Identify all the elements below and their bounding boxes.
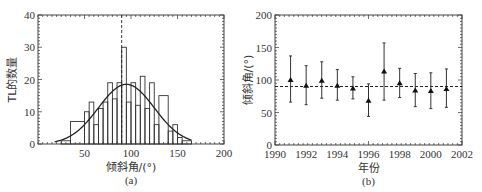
x-tick-label: 1998 <box>389 148 412 160</box>
y-tick-label: 200 <box>256 9 273 21</box>
triangle-marker <box>381 69 387 74</box>
figure: 50100150200010203040倾斜角/(°)TL的数量(a) 1990… <box>0 0 482 192</box>
histogram-bin <box>178 138 183 144</box>
histogram-bin <box>131 83 136 144</box>
panel-caption: (a) <box>125 174 138 187</box>
histogram-bin <box>126 102 131 144</box>
histogram-bin <box>168 131 173 144</box>
x-tick-label: 1996 <box>358 148 381 160</box>
triangle-marker <box>428 88 434 93</box>
gaussian-fit-curve <box>55 84 192 141</box>
y-tick-label: 40 <box>24 9 36 21</box>
histogram-bin <box>103 102 108 144</box>
triangle-marker <box>366 98 372 103</box>
y-tick-label: 50 <box>261 107 273 119</box>
y-tick-label: 10 <box>24 106 36 118</box>
x-tick-label: 100 <box>123 147 140 159</box>
histogram-bin <box>89 102 94 144</box>
histogram-bin <box>71 121 85 144</box>
histogram-bin <box>122 47 127 144</box>
triangle-marker <box>288 77 294 82</box>
y-axis-label: TL的数量 <box>5 57 19 104</box>
y-tick-label: 30 <box>24 41 36 53</box>
histogram-bin <box>85 112 90 144</box>
plot-frame <box>275 15 462 145</box>
y-tick-label: 20 <box>24 74 36 86</box>
x-tick-label: 50 <box>79 147 91 159</box>
histogram-bin <box>94 125 99 144</box>
triangle-marker <box>443 86 449 91</box>
histogram-bin <box>136 105 141 144</box>
x-axis-label: 倾斜角/(°) <box>106 161 157 174</box>
x-tick-label: 150 <box>169 147 186 159</box>
y-tick-label: 100 <box>256 74 273 86</box>
histogram-bin <box>117 83 122 144</box>
histogram-bin <box>154 125 159 144</box>
errorbar-panel-b: 1990199219941996199820002002050100150200… <box>242 9 473 188</box>
x-tick-label: 200 <box>216 147 233 159</box>
y-tick-label: 0 <box>267 139 273 151</box>
y-tick-label: 0 <box>30 138 36 150</box>
panel-caption: (b) <box>362 175 375 188</box>
x-tick-label: 1992 <box>295 148 317 160</box>
triangle-marker <box>303 83 309 88</box>
histogram-bin <box>112 99 117 144</box>
histogram-bin <box>173 125 178 144</box>
histogram-bin <box>98 109 103 144</box>
triangle-marker <box>397 80 403 85</box>
triangle-marker <box>334 83 340 88</box>
histogram-bin <box>150 83 155 144</box>
histogram-bin <box>145 109 150 144</box>
x-tick-label: 2002 <box>451 148 473 160</box>
histogram-bin <box>140 76 145 144</box>
y-axis-label: 倾斜角/(°) <box>242 55 255 106</box>
x-tick-label: 1994 <box>326 148 349 160</box>
histogram-panel-a: 50100150200010203040倾斜角/(°)TL的数量(a) <box>5 9 233 187</box>
triangle-marker <box>319 78 325 83</box>
x-tick-label: 2000 <box>420 148 443 160</box>
x-axis-label: 年份 <box>358 161 380 175</box>
y-tick-label: 150 <box>256 42 273 54</box>
triangle-marker <box>412 87 418 92</box>
